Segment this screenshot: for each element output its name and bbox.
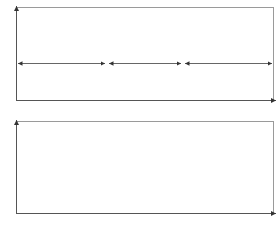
viscosity-chart — [16, 120, 276, 214]
shear-rate-chart — [16, 6, 276, 101]
figure — [0, 0, 279, 236]
bottom-chart-frame — [17, 122, 274, 214]
top-chart-frame — [17, 8, 274, 101]
